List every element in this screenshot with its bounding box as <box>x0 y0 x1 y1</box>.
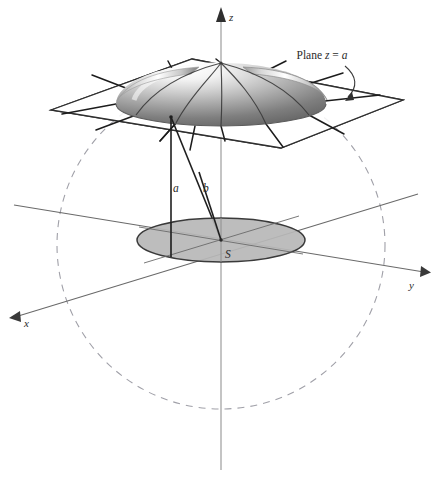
y-axis-label: y <box>408 279 414 291</box>
dome-surface <box>116 48 327 126</box>
z-axis-arrowhead <box>216 7 226 22</box>
region-s-label: S <box>225 248 231 260</box>
x-axis-label: x <box>23 317 29 329</box>
math-figure-canvas: x y z <box>0 0 434 481</box>
plane-label-var-a: a <box>342 49 348 61</box>
segment-top-vertex <box>169 115 173 119</box>
plane-label: Plane z = a <box>297 49 348 61</box>
segment-b-label: b <box>203 182 209 194</box>
y-axis-arrowhead <box>420 266 431 277</box>
z-axis-label: z <box>228 11 234 23</box>
x-axis-arrowhead <box>9 311 21 322</box>
plane-label-prefix: Plane <box>297 49 325 61</box>
segment-a-label: a <box>173 182 179 194</box>
origin-point <box>219 238 222 241</box>
plane-label-equals: = <box>329 49 341 61</box>
dome-apex-point <box>219 61 222 64</box>
